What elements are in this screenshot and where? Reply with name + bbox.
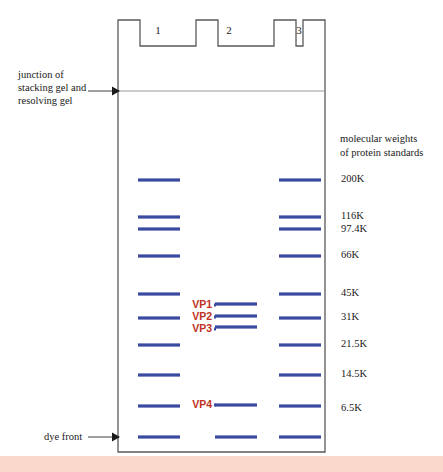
protein-band [138,215,180,218]
vp-label-vp1: VP1 [182,298,212,310]
protein-band [279,215,321,218]
protein-band [279,254,321,257]
protein-band [138,254,180,257]
lane-number-1: 1 [148,24,168,36]
protein-band [215,435,257,438]
protein-band [279,435,321,438]
lane-number-2: 2 [219,24,239,36]
protein-band [279,178,321,181]
molecular-weight-label: 97.4K [341,223,367,234]
protein-band [279,343,321,346]
gel-outline-path [118,20,325,452]
protein-band [279,404,321,407]
protein-band [279,373,321,376]
protein-band [138,316,180,319]
protein-band [138,404,180,407]
protein-band [138,373,180,376]
vp-label-vp4: VP4 [182,398,212,410]
protein-band [215,325,257,328]
protein-band [279,227,321,230]
molecular-weight-label: 66K [341,249,359,260]
protein-band [215,314,257,317]
gel-electrophoresis-figure: 1 2 3 junction of stacking gel and resol… [0,0,443,472]
dye-front-label: dye front [44,430,82,443]
vp-label-vp3: VP3 [182,322,212,334]
protein-band [138,227,180,230]
molecular-weight-label: 21.5K [341,338,367,349]
protein-band [279,316,321,319]
molecular-weight-label: 200K [341,173,364,184]
molecular-weight-label: 14.5K [341,368,367,379]
molecular-weight-label: 116K [341,210,364,221]
junction-label: junction of stacking gel and resolving g… [18,68,113,107]
molecular-weight-label: 31K [341,311,359,322]
protein-band [138,178,180,181]
molecular-weight-label: 45K [341,287,359,298]
protein-band [138,343,180,346]
molecular-weight-label: 6.5K [341,402,362,413]
protein-band [279,292,321,295]
protein-band [215,302,257,305]
protein-band [138,292,180,295]
dye-front-arrow [88,433,120,442]
bottom-color-strip [0,456,443,472]
standards-caption: molecular weights of protein standards [340,132,440,159]
lane-number-3: 3 [289,24,309,36]
vp-label-vp2: VP2 [182,310,212,322]
protein-band [138,435,180,438]
protein-band [215,403,257,406]
